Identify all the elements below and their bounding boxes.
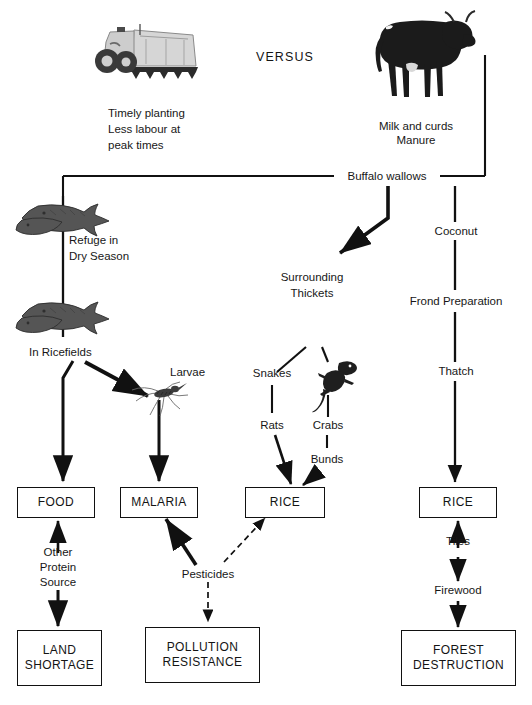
buffalo-wallows-node: Buffalo wallows <box>347 169 426 183</box>
other-protein-line-3: Source <box>40 575 76 589</box>
in-ricefields-node: In Ricefields <box>29 345 92 359</box>
tractor-benefit-line-3: peak times <box>108 138 164 152</box>
tractor-harvester-icon <box>88 22 206 84</box>
box-pollution-resistance: POLLUTION RESISTANCE <box>145 627 260 683</box>
tractor-benefit-line-2: Less labour at <box>108 122 180 136</box>
box-rice-right: RICE <box>419 487 497 518</box>
box-forest-destruction: FOREST DESTRUCTION <box>401 630 516 686</box>
wire-bunds-to-rice <box>303 471 320 485</box>
wire-pesticides-to-rice <box>224 518 265 562</box>
other-protein-line-1: Other <box>44 545 73 559</box>
box-food: FOOD <box>17 487 95 518</box>
refuge-node-line-1: Refuge in <box>69 233 118 247</box>
cow-product-line-2: Manure <box>397 133 436 147</box>
refuge-node-line-2: Dry Season <box>69 249 129 263</box>
surrounding-thickets-line-1: Surrounding <box>281 270 344 284</box>
thatch-node: Thatch <box>438 364 473 378</box>
cow-product-line-1: Milk and curds <box>379 119 453 133</box>
wire-hub-to-thickets <box>340 186 388 253</box>
diagram-canvas: VERSUS Timely planting Less labour at pe… <box>0 0 532 705</box>
lizard-icon <box>309 357 359 419</box>
mosquito-larvae-icon <box>128 375 194 417</box>
snakes-node: Snakes <box>253 366 291 380</box>
pesticides-node: Pesticides <box>182 567 234 581</box>
box-malaria: MALARIA <box>120 487 198 518</box>
versus-label: VERSUS <box>256 50 314 64</box>
tractor-benefit-line-1: Timely planting <box>108 106 185 120</box>
wire-rats-to-rice <box>275 435 291 484</box>
tiles-node: Tiles <box>446 534 470 548</box>
larvae-node: Larvae <box>170 365 205 379</box>
bunds-node: Bunds <box>311 452 344 466</box>
box-land-shortage: LAND SHORTAGE <box>17 630 102 686</box>
coconut-node: Coconut <box>435 224 478 238</box>
frond-preparation-node: Frond Preparation <box>410 294 503 308</box>
surrounding-thickets-line-2: Thickets <box>291 286 334 300</box>
box-rice-left: RICE <box>245 487 325 518</box>
wire-ricefields-to-food <box>63 361 73 481</box>
firewood-node: Firewood <box>434 583 481 597</box>
cow-icon <box>368 8 486 106</box>
wire-pesticides-to-malaria <box>166 519 196 565</box>
other-protein-line-2: Protein <box>40 560 76 574</box>
rats-node: Rats <box>260 418 284 432</box>
fish-pair-icon-bottom <box>14 298 114 346</box>
crabs-node: Crabs <box>313 418 344 432</box>
